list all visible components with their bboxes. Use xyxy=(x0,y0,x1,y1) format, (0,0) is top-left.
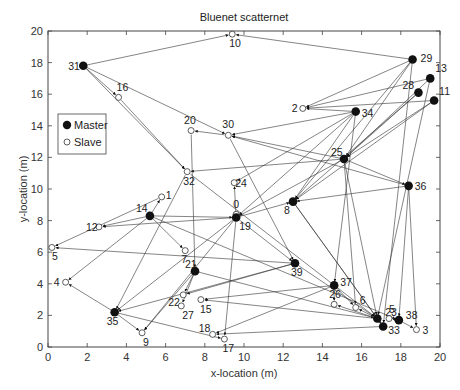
link-line xyxy=(205,286,330,299)
link-line xyxy=(225,221,236,335)
node-label: 32 xyxy=(183,175,195,187)
link-line xyxy=(378,82,429,314)
node-label: 20 xyxy=(184,114,196,126)
node-label: 36 xyxy=(415,180,427,192)
node-label: 34 xyxy=(362,107,374,119)
node-label: 35 xyxy=(107,315,119,327)
master-node xyxy=(404,182,413,191)
y-tick-label: 8 xyxy=(37,215,43,227)
x-tick-label: 18 xyxy=(395,351,407,363)
y-axis-label: y-location (m) xyxy=(17,156,29,223)
link-line xyxy=(191,135,195,268)
slave-node xyxy=(386,316,392,322)
slave-node xyxy=(180,292,186,298)
scatternet-chart: Bluenet scatternet 02468101214161820 024… xyxy=(0,0,460,390)
master-node xyxy=(430,96,439,105)
y-tick-label: 16 xyxy=(31,88,43,100)
slave-node xyxy=(413,327,419,333)
x-axis-label: x-location (m) xyxy=(211,367,278,379)
node-label: 39 xyxy=(291,266,303,278)
node-label: 25 xyxy=(331,146,343,158)
node-label: 5 xyxy=(52,250,58,262)
link-line xyxy=(402,322,413,328)
link-line xyxy=(116,175,185,309)
node-label: 30 xyxy=(222,118,234,130)
y-tick-label: 2 xyxy=(37,309,43,321)
x-tick-label: 10 xyxy=(238,351,250,363)
y-axis-ticks: 02468101214161820 xyxy=(31,25,440,353)
link-line xyxy=(69,284,111,310)
slave-node xyxy=(331,301,337,307)
x-tick-label: 20 xyxy=(434,351,446,363)
x-tick-label: 4 xyxy=(123,351,129,363)
x-tick-label: 12 xyxy=(277,351,289,363)
link-line xyxy=(185,275,193,292)
node-label: 11 xyxy=(439,85,450,97)
slave-node xyxy=(159,194,165,200)
node-label: 12 xyxy=(86,221,98,233)
master-node xyxy=(289,197,298,206)
x-tick-label: 8 xyxy=(202,351,208,363)
node-label: 18 xyxy=(199,322,211,334)
node-label: 6 xyxy=(360,294,366,306)
link-line xyxy=(232,136,405,184)
link-line xyxy=(348,161,405,185)
node-label: 14 xyxy=(136,202,148,214)
node-label: 3 xyxy=(422,324,428,336)
legend-slave-marker xyxy=(64,139,70,145)
slave-node xyxy=(225,132,231,138)
link-line xyxy=(240,161,341,216)
x-tick-label: 16 xyxy=(355,351,367,363)
master-node xyxy=(395,316,404,325)
slave-node xyxy=(210,331,216,337)
legend-slave-label: Slave xyxy=(74,136,102,148)
link-line xyxy=(217,327,380,335)
link-line xyxy=(307,109,352,112)
master-node xyxy=(351,107,360,116)
chart-title: Bluenet scatternet xyxy=(200,11,289,23)
x-tick-label: 2 xyxy=(84,351,90,363)
link-line xyxy=(152,200,160,212)
node-label: 15 xyxy=(200,303,212,315)
x-tick-label: 14 xyxy=(316,351,328,363)
x-tick-label: 0 xyxy=(45,351,51,363)
link-line xyxy=(216,287,330,333)
link-line xyxy=(86,68,115,94)
link-line xyxy=(399,190,408,316)
node-label: 28 xyxy=(402,79,414,91)
node-label: 13 xyxy=(435,62,447,74)
node-label: 9 xyxy=(143,336,149,348)
y-tick-label: 18 xyxy=(31,57,43,69)
node-label: 2 xyxy=(292,102,298,114)
node-label: 4 xyxy=(54,276,60,288)
node-label: 31 xyxy=(68,60,80,72)
y-tick-label: 12 xyxy=(31,151,43,163)
node-label: 16 xyxy=(117,81,129,93)
x-tick-label: 6 xyxy=(163,351,169,363)
master-node xyxy=(379,322,388,331)
node-label: 1 xyxy=(166,189,172,201)
legend-master-marker xyxy=(63,121,71,129)
link-line xyxy=(306,61,408,107)
link-line xyxy=(103,218,232,227)
slave-node xyxy=(63,279,69,285)
node-label: 8 xyxy=(284,204,290,216)
node-label: 17 xyxy=(222,342,234,354)
y-tick-label: 0 xyxy=(37,341,43,353)
master-node xyxy=(414,88,423,97)
master-node xyxy=(408,55,417,64)
slave-node xyxy=(353,305,359,311)
link-line xyxy=(103,217,146,226)
node-label: 10 xyxy=(229,37,241,49)
node-label: 21 xyxy=(185,258,197,270)
node-label: 0 xyxy=(233,198,239,210)
node-label: 37 xyxy=(340,276,352,288)
node-label: 29 xyxy=(421,52,433,64)
link-line xyxy=(236,35,408,59)
node-label: 19 xyxy=(239,220,251,232)
link-line xyxy=(56,248,291,263)
node-label: 38 xyxy=(406,309,418,321)
link-line xyxy=(87,35,228,65)
legend: Master Slave xyxy=(58,114,108,154)
slave-node xyxy=(188,128,194,134)
